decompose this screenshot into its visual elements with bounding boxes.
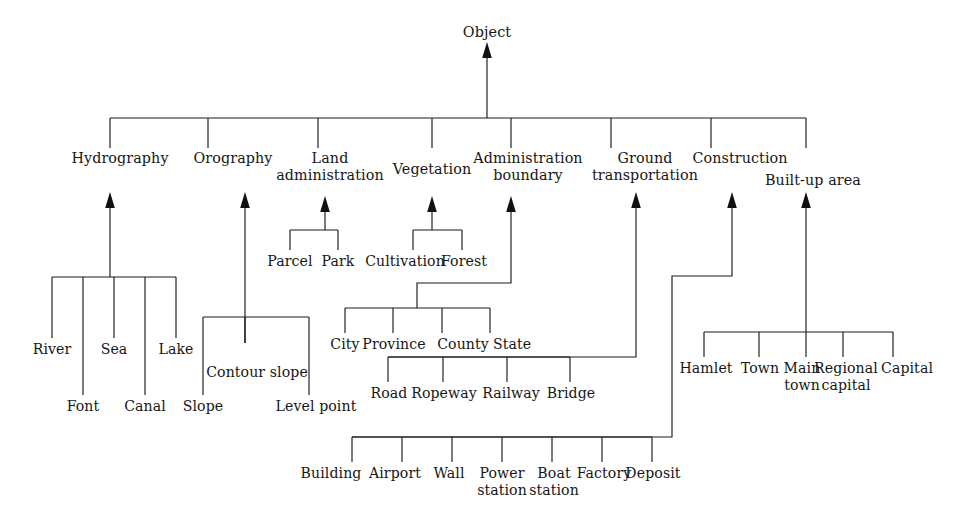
node-contour-slope[interactable]: Contour slope xyxy=(206,364,308,381)
node-deposit[interactable]: Deposit xyxy=(625,465,680,482)
edge-ground-transportation-stem xyxy=(388,202,636,357)
node-railway[interactable]: Railway xyxy=(482,385,539,402)
arrowhead-built-up-area xyxy=(801,192,811,208)
node-province[interactable]: Province xyxy=(362,336,425,353)
node-county[interactable]: County xyxy=(437,336,489,353)
node-state[interactable]: State xyxy=(493,336,531,353)
node-factory[interactable]: Factory xyxy=(577,465,632,482)
node-canal[interactable]: Canal xyxy=(124,398,166,415)
diagram-canvas: Object Hydrography Orography Land admini… xyxy=(0,0,965,527)
node-vegetation[interactable]: Vegetation xyxy=(393,161,472,178)
node-wall[interactable]: Wall xyxy=(433,465,464,482)
node-power-station[interactable]: Power station xyxy=(477,465,527,499)
node-lake[interactable]: Lake xyxy=(158,341,193,358)
arrowhead-administration-boundary xyxy=(506,196,516,212)
arrowhead-construction xyxy=(727,192,737,208)
node-administration-boundary[interactable]: Administration boundary xyxy=(473,150,582,185)
node-level-point[interactable]: Level point xyxy=(276,398,357,415)
node-forest[interactable]: Forest xyxy=(441,253,487,270)
arrowhead-ground-transportation xyxy=(631,192,641,208)
node-built-up-area[interactable]: Built-up area xyxy=(765,172,861,189)
node-orography[interactable]: Orography xyxy=(193,150,272,167)
node-object[interactable]: Object xyxy=(463,24,511,42)
node-hydrography[interactable]: Hydrography xyxy=(71,150,168,167)
node-hamlet[interactable]: Hamlet xyxy=(679,360,732,377)
node-town[interactable]: Town xyxy=(741,360,779,377)
arrowhead-hydrography xyxy=(105,192,115,208)
node-capital[interactable]: Capital xyxy=(881,360,933,377)
node-bridge[interactable]: Bridge xyxy=(547,385,596,402)
node-road[interactable]: Road xyxy=(371,385,408,402)
node-airport[interactable]: Airport xyxy=(369,465,421,482)
node-ropeway[interactable]: Ropeway xyxy=(411,385,477,402)
node-ground-transportation[interactable]: Ground transportation xyxy=(592,150,698,185)
node-construction[interactable]: Construction xyxy=(692,150,787,167)
node-land-administration[interactable]: Land administration xyxy=(276,150,384,185)
arrowhead-vegetation xyxy=(427,196,437,212)
arrowhead-root xyxy=(482,42,492,58)
node-park[interactable]: Park xyxy=(322,253,355,270)
node-river[interactable]: River xyxy=(33,341,72,358)
node-sea[interactable]: Sea xyxy=(101,341,128,358)
node-regional-capital[interactable]: Regional capital xyxy=(814,360,878,394)
node-building[interactable]: Building xyxy=(301,465,362,482)
node-city[interactable]: City xyxy=(330,336,359,353)
arrowhead-orography xyxy=(240,192,250,208)
node-cultivation[interactable]: Cultivation xyxy=(365,253,445,270)
node-font[interactable]: Font xyxy=(67,398,100,415)
edge-construction-stem xyxy=(352,202,732,437)
arrowhead-land-administration xyxy=(320,196,330,212)
node-slope[interactable]: Slope xyxy=(183,398,224,415)
node-parcel[interactable]: Parcel xyxy=(267,253,312,270)
node-boat-station[interactable]: Boat station xyxy=(529,465,579,499)
